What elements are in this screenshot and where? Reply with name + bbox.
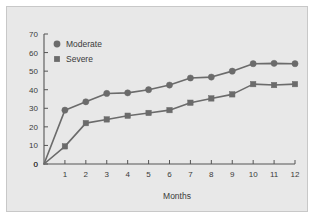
legend-label-moderate: Moderate (66, 39, 102, 49)
data-point-circle (229, 68, 235, 74)
data-point-circle (104, 90, 110, 96)
data-point-square (250, 81, 255, 86)
chart-figure: 0102030405060700123456789101112 Moderate… (6, 6, 308, 212)
data-point-circle (292, 61, 298, 67)
x-axis-tick-label: 7 (188, 170, 193, 179)
x-axis-tick-label: 6 (167, 170, 172, 179)
data-point-circle (208, 74, 214, 80)
legend-label-severe: Severe (66, 54, 93, 64)
data-point-circle (62, 107, 68, 113)
data-point-square (271, 82, 276, 87)
x-axis-title: Months (163, 191, 191, 201)
line-chart: 0102030405060700123456789101112 Moderate… (7, 7, 309, 213)
data-series-severe (44, 81, 298, 164)
data-point-circle (83, 99, 89, 105)
data-point-square (62, 144, 67, 149)
y-axis-tick-label: 20 (29, 123, 38, 132)
data-point-square (292, 81, 297, 86)
data-series-group (44, 60, 298, 164)
data-point-circle (166, 82, 172, 88)
data-point-square (125, 113, 130, 118)
x-axis-tick-label: 0 (34, 160, 39, 169)
series-line (44, 63, 295, 164)
y-axis-tick-label: 50 (29, 67, 38, 76)
data-point-square (209, 96, 214, 101)
data-point-square (167, 107, 172, 112)
legend-marker-square (54, 56, 60, 62)
x-axis-tick-label: 11 (270, 170, 279, 179)
axis-tick-labels: 0102030405060700123456789101112 (29, 30, 300, 179)
chart-legend: ModerateSevere (54, 39, 103, 64)
data-point-square (188, 100, 193, 105)
data-point-square (230, 92, 235, 97)
x-axis-tick-label: 5 (146, 170, 151, 179)
x-axis-tick-label: 10 (249, 170, 258, 179)
data-point-circle (271, 60, 277, 66)
y-axis-tick-label: 70 (29, 30, 38, 39)
y-axis-tick-label: 60 (29, 49, 38, 58)
y-axis-tick-label: 30 (29, 104, 38, 113)
legend-marker-circle (54, 41, 61, 48)
data-point-circle (187, 75, 193, 81)
data-point-circle (125, 90, 131, 96)
y-axis-tick-label: 40 (29, 86, 38, 95)
y-axis-tick-label: 10 (29, 141, 38, 150)
data-point-square (146, 110, 151, 115)
x-axis-tick-label: 4 (125, 170, 130, 179)
data-point-circle (145, 87, 151, 93)
series-line (44, 84, 295, 164)
data-point-square (83, 120, 88, 125)
x-axis-tick-label: 1 (63, 170, 68, 179)
data-point-circle (250, 61, 256, 67)
x-axis-tick-label: 8 (209, 170, 214, 179)
data-point-square (104, 117, 109, 122)
x-axis-tick-label: 9 (230, 170, 235, 179)
x-axis-tick-label: 3 (105, 170, 110, 179)
x-axis-tick-label: 12 (291, 170, 300, 179)
x-axis-tick-label: 2 (84, 170, 89, 179)
